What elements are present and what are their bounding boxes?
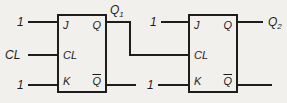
ff1-pin-j-label: J xyxy=(63,20,69,31)
ff2-pin-q-label: Q xyxy=(223,20,232,31)
wire-q1-vertical xyxy=(129,21,131,56)
wire-ff2-qbar-output xyxy=(238,84,272,86)
ff2-j-constant-label: 1 xyxy=(150,16,157,28)
ff1-pin-qbar-label: Q xyxy=(92,76,101,87)
ff2-pin-j-label: J xyxy=(194,20,200,31)
clock-input-label: CL xyxy=(5,49,20,61)
ff2-pin-qbar-label: Q xyxy=(223,76,232,87)
q1-base: Q xyxy=(110,3,119,17)
ff2-pin-k-label: K xyxy=(194,76,201,87)
ff1-j-constant-label: 1 xyxy=(17,16,24,28)
q2-base: Q xyxy=(268,15,277,29)
q2-subscript: 2 xyxy=(277,22,281,31)
wire-ff1-q-output xyxy=(107,21,131,23)
flipflop-1: J Q CL K Q xyxy=(57,14,107,93)
ff2-k-constant-label: 1 xyxy=(147,79,154,91)
ff1-pin-cl-label: CL xyxy=(63,50,77,61)
jk-flipflop-cascade-diagram: J Q CL K Q J Q CL K Q 1 CL 1 1 1 Q1 Q2 xyxy=(0,0,287,103)
wire-ff1-j-input xyxy=(28,21,58,23)
wire-ff2-k-input xyxy=(158,84,189,86)
ff1-k-constant-label: 1 xyxy=(17,79,24,91)
ff2-pin-cl-label: CL xyxy=(194,50,208,61)
wire-ff2-j-input xyxy=(161,21,189,23)
wire-ff1-cl-input xyxy=(28,54,58,56)
q1-subscript: 1 xyxy=(119,10,123,19)
wire-q1-to-ff2-cl xyxy=(129,54,189,56)
wire-ff2-q-output xyxy=(238,21,263,23)
wire-ff1-k-input xyxy=(28,84,58,86)
q2-output-label: Q2 xyxy=(268,16,282,31)
ff1-pin-q-label: Q xyxy=(92,20,101,31)
wire-ff1-qbar-output xyxy=(107,84,136,86)
q1-output-label: Q1 xyxy=(110,4,124,19)
flipflop-2: J Q CL K Q xyxy=(188,14,238,93)
ff1-pin-k-label: K xyxy=(63,76,70,87)
